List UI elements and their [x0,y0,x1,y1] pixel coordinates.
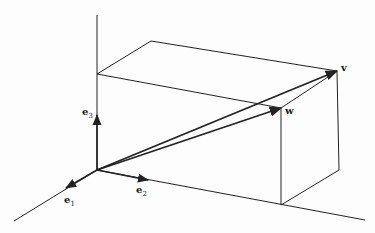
box-edge [97,41,151,74]
vector-e1 [66,170,97,188]
box-edge [151,41,337,71]
vector-e2 [97,170,148,180]
vector-w [97,108,281,170]
label-e2: e2 [136,185,147,198]
diagram-svg [0,0,375,233]
label-e1: e1 [64,195,75,208]
vector-v [97,71,337,170]
vector-diagram: e3 e1 e2 v w [0,0,375,233]
box-edge [281,170,339,205]
box-edge [281,71,337,108]
label-e3: e3 [82,107,93,120]
box-edge [337,71,339,170]
label-v: v [341,63,347,73]
label-w: w [285,106,294,116]
box-edge [97,74,281,108]
